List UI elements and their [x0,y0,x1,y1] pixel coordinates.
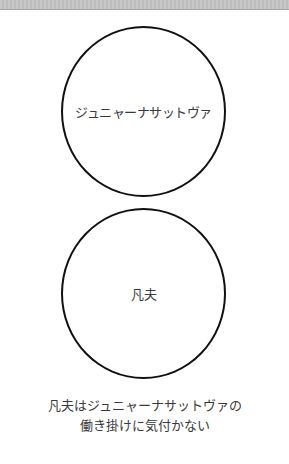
top-edge-bar [0,0,289,10]
circle-label-jnanasattva: ジュニャーナサットヴァ [75,102,212,121]
caption-line-1: 凡夫はジュニャーナサットヴァの [0,396,289,416]
circle-ordinary-person: 凡夫 [61,208,226,379]
circle-jnanasattva: ジュニャーナサットヴァ [61,26,226,197]
diagram-caption: 凡夫はジュニャーナサットヴァの 働き掛けに気付かない [0,396,289,436]
circle-label-ordinary-person: 凡夫 [131,284,156,303]
caption-line-2: 働き掛けに気付かない [0,416,289,436]
